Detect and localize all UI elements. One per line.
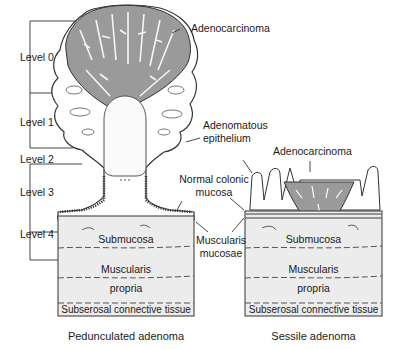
caption-pedunculated: Pedunculated adenoma [58, 330, 194, 342]
muscularis-mucosae-label-1: Muscularis [191, 234, 251, 246]
normal-colonic-mucosa-label-2: mucosa [174, 186, 254, 198]
subserosal-label-right: Subserosal connective tissue [245, 304, 382, 316]
level-4-label: Level 4 [20, 228, 54, 240]
adenocarcinoma-label-pedunculated: Adenocarcinoma [191, 22, 270, 34]
level-3-label: Level 3 [20, 186, 54, 198]
adenomatous-epithelium-label-2: epithelium [203, 132, 251, 144]
normal-colonic-mucosa-label-1: Normal colonic [174, 173, 254, 185]
level-0-label: Level 0 [20, 51, 54, 63]
submucosa-label-right: Submucosa [245, 233, 382, 245]
muscularis-mucosae-label-2: mucosae [191, 247, 251, 259]
subserosal-label-left: Subserosal connective tissue [58, 304, 194, 316]
muscularis-propria-label-left-2: propria [58, 282, 194, 294]
adenocarcinoma-label-sessile: Adenocarcinoma [273, 145, 352, 157]
muscularis-propria-label-right-2: propria [245, 282, 382, 294]
muscularis-propria-label-right-1: Muscularis [245, 263, 382, 275]
adenomatous-epithelium-label-1: Adenomatous [203, 119, 268, 131]
caption-sessile: Sessile adenoma [245, 330, 382, 342]
submucosa-label-left: Submucosa [58, 233, 194, 245]
muscularis-propria-label-left-1: Muscularis [58, 263, 194, 275]
level-1-label: Level 1 [20, 116, 54, 128]
level-2-label: Level 2 [20, 153, 54, 165]
